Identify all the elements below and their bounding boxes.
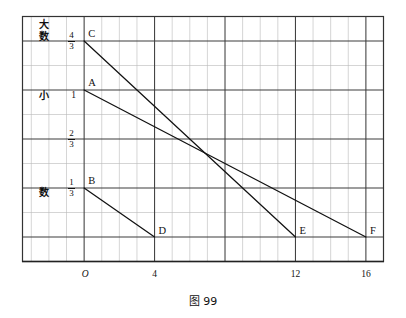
x-tick-label-1: 4 [152,270,157,280]
point-label-e: E [299,226,305,237]
point-label-d: D [159,226,167,237]
figure-caption: 图 99 [0,292,406,308]
axis-title-small-number-char1: 小 [39,91,49,101]
graph-canvas [0,0,406,318]
point-label-f: F [370,226,376,237]
x-tick-label-2: 12 [291,270,301,280]
major-gridlines [23,17,384,262]
point-label-a: A [88,78,96,89]
figure-99: 大 数 小 数 4312313 O41216 CABDEF 图 99 [0,0,406,318]
y-tick-label-3: 13 [68,178,75,199]
axis-title-small-number-char2: 数 [39,188,49,198]
point-label-c: C [88,29,95,40]
y-tick-label-1: 1 [71,85,76,101]
y-tick-label-0: 43 [68,31,75,52]
x-tick-label-3: 16 [361,270,371,280]
x-tick-label-0: O [82,270,89,280]
y-tick-label-2: 23 [68,129,75,150]
axis-title-big-number-char1: 大 [39,20,49,30]
point-label-b: B [88,176,95,187]
axis-title-big-number-char2: 数 [39,32,49,42]
